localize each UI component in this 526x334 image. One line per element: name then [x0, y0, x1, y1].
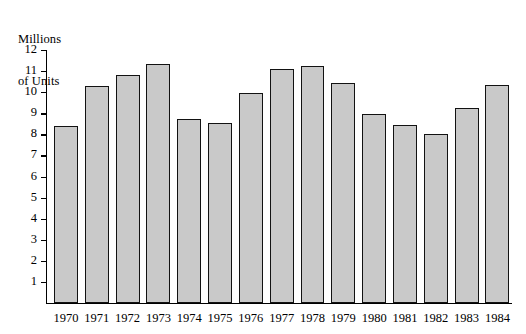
y-tick-label: 5: [15, 190, 37, 204]
y-tick-mark: [41, 113, 47, 114]
x-label-1984: 1984: [482, 311, 512, 325]
bar-1980: [362, 114, 386, 303]
y-tick-mark: [41, 92, 47, 93]
y-tick-mark: [41, 198, 47, 199]
y-tick-mark: [41, 177, 47, 178]
y-tick-mark: [41, 240, 47, 241]
x-label-1974: 1974: [174, 311, 204, 325]
y-tick-mark: [41, 261, 47, 262]
y-tick-label: 10: [15, 84, 37, 98]
bar-1972: [116, 75, 140, 303]
y-tick-label: 9: [15, 105, 37, 119]
bar-1974: [177, 119, 201, 303]
bar-1979: [331, 83, 355, 303]
y-tick-label: 11: [15, 63, 37, 77]
x-label-1979: 1979: [328, 311, 358, 325]
y-tick-label: 12: [15, 42, 37, 56]
x-label-1973: 1973: [143, 311, 173, 325]
y-tick-mark: [41, 282, 47, 283]
x-label-1978: 1978: [298, 311, 328, 325]
y-tick-mark: [41, 50, 47, 51]
x-label-1981: 1981: [390, 311, 420, 325]
x-label-1977: 1977: [267, 311, 297, 325]
bar-1983: [455, 108, 479, 303]
y-tick-label: 8: [15, 126, 37, 140]
bar-1982: [424, 134, 448, 303]
bar-1975: [208, 123, 232, 303]
bar-chart: Millions of Units 121110987654321 197019…: [0, 0, 526, 334]
plot-area: 121110987654321 197019711972197319741975…: [46, 50, 512, 303]
x-label-1975: 1975: [205, 311, 235, 325]
y-tick-label: 2: [15, 253, 37, 267]
x-label-1970: 1970: [51, 311, 81, 325]
y-tick-label: 7: [15, 147, 37, 161]
y-tick-label: 3: [15, 232, 37, 246]
x-label-1980: 1980: [359, 311, 389, 325]
bar-1976: [239, 93, 263, 303]
x-label-1976: 1976: [236, 311, 266, 325]
x-axis-line: [46, 303, 512, 304]
y-tick-label: 4: [15, 211, 37, 225]
y-tick-mark: [41, 155, 47, 156]
y-tick-mark: [41, 219, 47, 220]
x-label-1971: 1971: [82, 311, 112, 325]
bar-1978: [301, 66, 325, 303]
y-tick-label: 6: [15, 169, 37, 183]
x-label-1972: 1972: [113, 311, 143, 325]
bar-1970: [54, 126, 78, 303]
bar-1984: [485, 85, 509, 303]
y-tick-mark: [41, 71, 47, 72]
bar-1973: [146, 64, 170, 303]
y-tick-label: 1: [15, 274, 37, 288]
bar-1981: [393, 125, 417, 303]
x-label-1983: 1983: [452, 311, 482, 325]
bar-1971: [85, 86, 109, 303]
bar-1977: [270, 69, 294, 303]
y-tick-mark: [41, 134, 47, 135]
x-label-1982: 1982: [421, 311, 451, 325]
